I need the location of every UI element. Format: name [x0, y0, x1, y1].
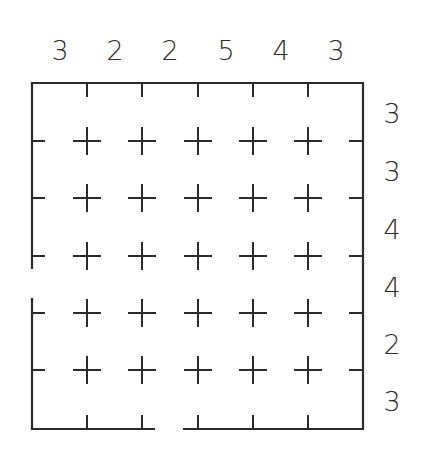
- top-clue-1: 3: [51, 35, 68, 66]
- top-clue-6: 3: [327, 35, 344, 66]
- plus-icon: [73, 184, 101, 212]
- right-clue-3: 4: [383, 214, 400, 245]
- plus-icon: [128, 127, 156, 155]
- plus-icon: [239, 356, 267, 384]
- plus-icon: [73, 356, 101, 384]
- plus-icon: [239, 242, 267, 270]
- right-clues: 3 3 4 4 2 3: [383, 98, 400, 417]
- plus-icon: [73, 299, 101, 327]
- right-clue-6: 3: [383, 386, 400, 417]
- plus-icon: [184, 356, 212, 384]
- top-clues: 3 2 2 5 4 3: [51, 35, 344, 66]
- plus-icon: [184, 184, 212, 212]
- right-clue-1: 3: [383, 98, 400, 129]
- right-clue-2: 3: [383, 156, 400, 187]
- plus-icon: [73, 242, 101, 270]
- top-clue-4: 5: [217, 35, 234, 66]
- plus-icon: [294, 127, 322, 155]
- plus-icon: [294, 184, 322, 212]
- plus-icon: [239, 127, 267, 155]
- plus-icon: [128, 242, 156, 270]
- plus-icon: [239, 299, 267, 327]
- plus-icon: [184, 127, 212, 155]
- plus-icon: [184, 299, 212, 327]
- plus-icon: [294, 356, 322, 384]
- top-clue-2: 2: [106, 35, 123, 66]
- plus-icon: [294, 242, 322, 270]
- top-clue-3: 2: [161, 35, 178, 66]
- puzzle-board: 3 2 2 5 4 3 3 3 4 4 2 3: [0, 0, 421, 455]
- right-clue-4: 4: [383, 272, 400, 303]
- plus-icon: [239, 184, 267, 212]
- plus-icon: [128, 299, 156, 327]
- top-clue-5: 4: [272, 35, 289, 66]
- plus-icon: [73, 127, 101, 155]
- plus-icon: [128, 184, 156, 212]
- plus-icon: [294, 299, 322, 327]
- right-clue-5: 2: [383, 329, 400, 360]
- plus-icon: [128, 356, 156, 384]
- interior-plus-marks: [73, 127, 322, 384]
- plus-icon: [184, 242, 212, 270]
